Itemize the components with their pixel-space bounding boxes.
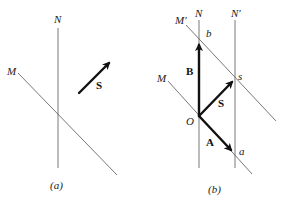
- vector-decomposition-diagram: N M S (a) N N′ M M′ B S A O b s: [0, 0, 285, 205]
- line-m-a: [18, 73, 117, 175]
- vector-s-b: [199, 82, 232, 116]
- label-point-o: O: [186, 115, 194, 127]
- caption-b: (b): [208, 183, 221, 196]
- label-n-a: N: [53, 13, 62, 25]
- label-n-prime-b: N′: [230, 7, 241, 19]
- panel-b: N N′ M M′ B S A O b s a (b): [156, 7, 276, 196]
- label-point-s: s: [238, 70, 242, 82]
- diagram-svg: N M S (a) N N′ M M′ B S A O b s: [0, 0, 285, 205]
- label-vector-b: B: [186, 65, 194, 77]
- label-vector-s-b: S: [218, 97, 224, 109]
- vector-s-a: [79, 63, 109, 93]
- label-m-b: M: [156, 72, 167, 84]
- vector-a: [199, 116, 231, 150]
- label-m-a: M: [6, 65, 17, 77]
- label-n-b: N: [194, 7, 203, 19]
- label-point-b: b: [206, 27, 212, 39]
- label-s-a: S: [96, 79, 102, 91]
- label-m-prime-b: M′: [174, 14, 187, 26]
- panel-a: N M S (a): [6, 13, 117, 192]
- label-vector-a: A: [206, 136, 214, 148]
- caption-a: (a): [50, 179, 63, 192]
- label-point-a: a: [239, 145, 245, 157]
